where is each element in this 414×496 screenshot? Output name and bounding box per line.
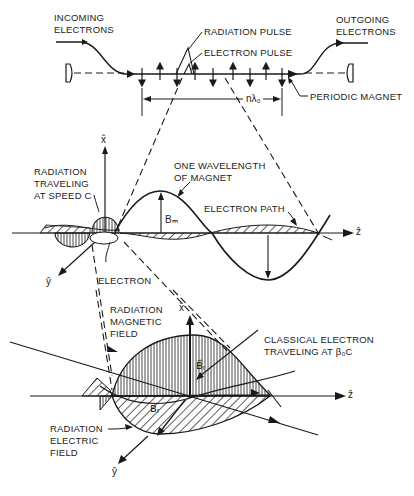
br-lower-label: B⃗ᵣ — [150, 403, 159, 414]
bottom-z-axis-label: ẑ — [348, 389, 353, 400]
bottom-x-axis-label: x̂ — [179, 302, 184, 313]
diagram-canvas — [0, 0, 414, 496]
radiation-traveling-label: RADIATION TRAVELING AT SPEED C — [34, 166, 92, 202]
middle-x-axis-label: x̂ — [101, 134, 106, 145]
radiation-electric-field-label: RADIATION ELECTRIC FIELD — [50, 423, 103, 459]
bottom-y-axis-label: ŷ — [112, 466, 117, 477]
right-mirror-icon — [347, 64, 353, 82]
br-upper-label: B⃗ᵣ — [196, 360, 205, 371]
top-panel — [56, 32, 368, 116]
projection-lines-top — [112, 78, 320, 240]
n-lambda-label: nλ₀ — [246, 93, 261, 104]
radiation-lobe-lower — [55, 233, 90, 247]
periodic-magnet-label: PERIODIC MAGNET — [310, 91, 402, 103]
electron-pulse-label: ELECTRON PULSE — [204, 47, 292, 59]
middle-z-axis-label: ẑ — [356, 226, 361, 237]
one-wavelength-label: ONE WAVELENGTH OF MAGNET — [174, 160, 265, 184]
electron-path — [120, 225, 318, 239]
outgoing-electrons-label: OUTGOING ELECTRONS — [336, 14, 396, 38]
classical-electron-label: CLASSICAL ELECTRON TRAVELING AT β₀C — [264, 334, 374, 358]
incoming-electrons-arrow — [56, 42, 134, 74]
electron-pulse-shape — [184, 64, 192, 74]
bm-label: Bₘ — [165, 214, 178, 225]
electron-path-label: ELECTRON PATH — [204, 203, 285, 215]
outgoing-electrons-arrow — [290, 43, 368, 74]
incoming-electrons-label: INCOMING ELECTRONS — [54, 12, 114, 36]
left-mirror-icon — [66, 64, 72, 82]
middle-y-axis-label: ŷ — [46, 276, 51, 287]
radiation-pulse-label: RADIATION PULSE — [204, 26, 292, 38]
electron-label: ELECTRON — [98, 275, 151, 287]
radiation-magnetic-field-label: RADIATION MAGNETIC FIELD — [110, 304, 163, 340]
